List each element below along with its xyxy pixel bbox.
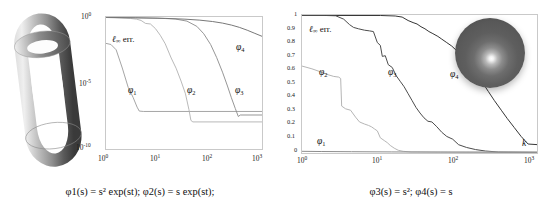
left-ytick-2: 10-10 — [76, 143, 91, 152]
left-ytick-0: 100 — [81, 12, 91, 21]
left-xtick-3: 103 — [252, 154, 262, 163]
right-xtick-2: 102 — [448, 156, 458, 165]
ring-icon — [14, 10, 82, 172]
right-caption: φ3(s) = s²; φ4(s) = s — [272, 186, 550, 197]
left-caption-text: φ1(s) = s² exp(st); φ2(s) = s exp(st); — [66, 186, 215, 197]
right-ytick-10: 0 — [294, 146, 297, 153]
figure-root: ℓ∞ err. φ1 φ2 φ3 φ4 100 10-5 10-10 100 — [0, 0, 550, 223]
sphere-shape — [455, 18, 529, 92]
right-xtick-3: 103 — [524, 156, 534, 165]
right-curve-label-phi4: φ4 — [450, 68, 459, 79]
right-ytick-9: 0.1 — [287, 132, 295, 139]
left-curve-label-phi3: φ3 — [235, 84, 244, 95]
sphere-icon — [455, 18, 525, 88]
right-ytick-1: 0.9 — [287, 24, 295, 31]
left-ytick-1: 10-5 — [79, 79, 91, 88]
infinity-symbol: ∞ — [116, 37, 121, 44]
left-curve-label-phi1: φ1 — [128, 84, 137, 95]
left-y-axis-label: ℓ∞ err. — [112, 34, 134, 44]
err-text: err. — [320, 24, 332, 34]
left-panel: ℓ∞ err. φ1 φ2 φ3 φ4 100 10-5 10-10 100 — [0, 0, 275, 180]
right-curve-label-phi2: φ2 — [319, 66, 328, 77]
right-curve-label-phi1: φ1 — [317, 135, 326, 146]
right-curve-label-phi3: φ3 — [388, 66, 397, 77]
curve-phi3 — [106, 17, 262, 116]
right-caption-text: φ3(s) = s²; φ4(s) = s — [369, 186, 452, 197]
curve-phi1 — [106, 43, 262, 111]
left-xtick-1: 101 — [150, 154, 160, 163]
ring-shape — [14, 10, 82, 172]
left-caption: φ1(s) = s² exp(st); φ2(s) = s exp(st); — [0, 186, 280, 197]
right-y-axis-label: ℓ∞ err. — [309, 24, 331, 34]
right-ytick-7: 0.3 — [287, 105, 295, 112]
right-ytick-5: 0.5 — [287, 78, 295, 85]
infinity-symbol: ∞ — [313, 27, 318, 34]
err-text: err. — [123, 34, 135, 44]
right-ytick-8: 0.2 — [287, 118, 295, 125]
right-ytick-3: 0.7 — [287, 51, 295, 58]
left-curve-label-phi2: φ2 — [187, 84, 196, 95]
right-x-axis-symbol: k — [522, 138, 526, 148]
right-ytick-6: 0.4 — [287, 91, 295, 98]
right-ytick-0: 1 — [294, 10, 297, 17]
right-ytick-2: 0.8 — [287, 37, 295, 44]
right-xtick-1: 101 — [372, 156, 382, 165]
right-ytick-4: 0.6 — [287, 64, 295, 71]
right-xtick-0: 100 — [297, 156, 307, 165]
left-curve-label-phi4: φ4 — [236, 41, 245, 52]
left-xtick-0: 100 — [98, 154, 108, 163]
left-xtick-2: 102 — [202, 154, 212, 163]
